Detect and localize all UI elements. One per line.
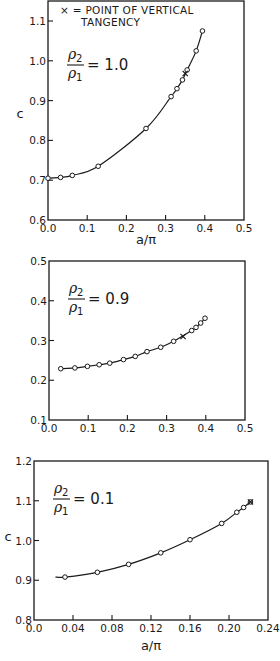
y-tick-label: 0.9 (15, 574, 32, 586)
fitted-curve (55, 502, 250, 577)
x-tick-label: 0.12 (139, 622, 162, 634)
y-tick-label: 0.5 (30, 255, 47, 267)
svg-text:2: 2 (62, 487, 68, 498)
data-point-marker (63, 575, 68, 580)
legend-annotation: × = POINT OF VERTICALTANGENCY (60, 4, 194, 28)
y-tick-label: 0.7 (29, 174, 46, 186)
data-point-marker (46, 176, 51, 181)
data-point-marker (97, 362, 102, 367)
data-point-marker (235, 510, 240, 515)
data-point-marker (70, 173, 75, 178)
data-point-marker (126, 562, 131, 567)
x-tick-label: 0.2 (118, 222, 135, 234)
data-point-marker (219, 521, 224, 526)
x-tick-label: 0.20 (217, 622, 240, 634)
y-tick-label: 1.1 (29, 15, 46, 27)
svg-text:1: 1 (77, 306, 83, 317)
svg-text:1: 1 (76, 72, 82, 83)
y-tick-label: 1.2 (15, 455, 32, 467)
data-point-marker (200, 29, 205, 34)
plot-frame (34, 461, 268, 620)
x-tick-label: 0.24 (256, 622, 280, 634)
y-tick-label: 0.6 (29, 214, 46, 226)
chart-panel-ratio-1-0: 0.00.10.20.30.40.50.60.70.80.91.01.1a/πc… (16, 1, 252, 247)
density-ratio-value: = 0.1 (73, 490, 114, 508)
figure-canvas: 0.00.10.20.30.40.50.60.70.80.91.01.1a/πc… (0, 0, 280, 661)
density-ratio-value: = 0.9 (88, 290, 129, 308)
y-axis-label: c (4, 529, 11, 544)
data-point-marker (194, 49, 199, 54)
x-axis-label: a/π (136, 232, 156, 247)
x-tick-label: 0.08 (100, 622, 123, 634)
fitted-curve (61, 318, 205, 368)
x-tick-label: 0.1 (80, 422, 97, 434)
x-tick-label: 0.04 (61, 622, 85, 634)
y-tick-label: 0.3 (30, 335, 47, 347)
data-point-marker (121, 357, 126, 362)
y-axis-label: c (16, 106, 23, 121)
svg-text:2: 2 (77, 287, 83, 298)
data-point-marker (175, 86, 180, 91)
x-tick-label: 0.4 (197, 422, 214, 434)
x-tick-label: 0.4 (196, 222, 213, 234)
y-tick-label: 1.0 (29, 55, 46, 67)
y-tick-label: 0.8 (29, 134, 46, 146)
data-point-marker (96, 164, 101, 169)
x-tick-label: 0.5 (237, 422, 254, 434)
chart-panel-ratio-0-1: 0.00.040.080.120.160.200.240.80.91.01.11… (4, 455, 280, 653)
data-point-marker (171, 339, 176, 344)
data-point-marker (169, 94, 174, 99)
y-tick-label: 1.0 (15, 535, 32, 547)
x-axis-label: a/π (141, 638, 161, 653)
data-point-marker (188, 537, 193, 542)
y-tick-label: 0.8 (15, 614, 32, 626)
svg-text:1: 1 (62, 506, 68, 517)
x-tick-label: 0.5 (236, 222, 253, 234)
density-ratio-label: ρ2ρ1= 0.1 (53, 480, 114, 517)
x-tick-label: 0.1 (79, 222, 96, 234)
y-tick-label: 0.4 (30, 295, 47, 307)
data-point-marker (194, 325, 199, 330)
data-point-marker (198, 321, 203, 326)
data-point-marker (58, 366, 63, 371)
data-point-marker (58, 175, 63, 180)
plot-frame (49, 261, 245, 420)
data-point-marker (241, 505, 246, 510)
density-ratio-value: = 1.0 (87, 56, 128, 74)
data-point-marker (203, 316, 208, 321)
data-point-marker (107, 361, 112, 366)
svg-text:× = POINT OF VERTICAL: × = POINT OF VERTICAL (60, 4, 194, 16)
chart-panel-ratio-0-9: 0.00.10.20.30.40.50.10.20.30.40.5ρ2ρ1= 0… (30, 255, 253, 434)
data-point-marker (189, 328, 194, 333)
x-tick-label: 0.2 (119, 422, 136, 434)
x-tick-label: 0.3 (158, 422, 175, 434)
plot-frame (48, 1, 244, 220)
x-tick-label: 0.3 (157, 222, 174, 234)
data-point-marker (180, 78, 185, 83)
data-point-marker (85, 364, 90, 369)
density-ratio-label: ρ2ρ1= 1.0 (67, 46, 128, 83)
y-tick-label: 1.1 (15, 495, 32, 507)
data-point-marker (95, 570, 100, 575)
svg-text:2: 2 (76, 53, 82, 64)
y-tick-label: 0.1 (30, 414, 47, 426)
data-point-marker (133, 354, 138, 359)
data-point-marker (158, 345, 163, 350)
data-point-marker (144, 126, 149, 131)
data-point-marker (158, 551, 163, 556)
data-point-marker (73, 366, 78, 371)
x-tick-label: 0.16 (178, 622, 202, 634)
density-ratio-label: ρ2ρ1= 0.9 (68, 280, 129, 317)
y-tick-label: 0.9 (29, 95, 46, 107)
data-point-marker (145, 349, 150, 354)
svg-text:TANGENCY: TANGENCY (80, 16, 141, 28)
y-tick-label: 0.2 (30, 374, 47, 386)
